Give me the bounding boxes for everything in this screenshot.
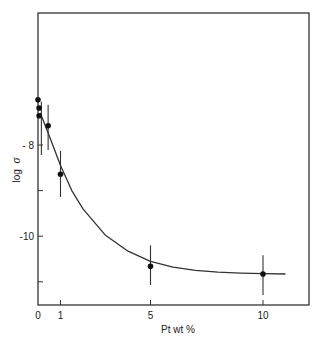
- data-point: [35, 97, 41, 103]
- data-point: [260, 271, 266, 277]
- y-axis-label: log σ: [9, 156, 23, 182]
- x-tick-label: 1: [58, 310, 64, 321]
- data-point: [36, 113, 42, 119]
- x-tick-label: 10: [257, 310, 269, 321]
- data-point: [45, 123, 51, 129]
- y-axis-label-symbol: σ: [9, 156, 23, 163]
- x-tick-label: 0: [35, 310, 41, 321]
- y-tick-label: -10: [20, 231, 35, 242]
- data-point: [36, 105, 42, 111]
- fit-curve: [40, 113, 285, 274]
- data-point: [58, 171, 64, 177]
- y-tick-label: - 8: [22, 140, 34, 151]
- y-axis: - 8-10: [20, 140, 43, 282]
- plot-frame: [38, 13, 309, 305]
- plot-border: [38, 13, 309, 305]
- x-axis: 01510: [35, 300, 269, 321]
- chart: 01510 - 8-10 Pt wt % log σ: [0, 0, 323, 346]
- fit-line: [40, 113, 285, 274]
- x-axis-label: Pt wt %: [161, 324, 195, 335]
- y-axis-label-text: log: [11, 169, 22, 182]
- svg-text:log σ: log σ: [9, 156, 23, 182]
- x-tick-label: 5: [148, 310, 154, 321]
- data-point: [148, 263, 154, 269]
